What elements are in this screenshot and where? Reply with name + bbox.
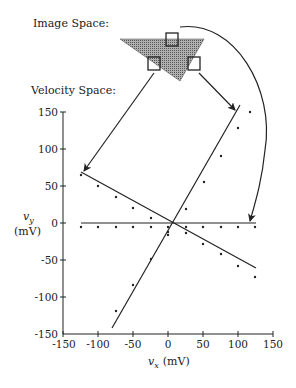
- diagram-canvas: 150 100 50 0 -50 -100 -150 -150 -100 -50…: [0, 0, 296, 388]
- points-steep: [115, 111, 251, 312]
- fit-line-sloped: [81, 172, 256, 268]
- svg-text:(mV): (mV): [14, 225, 41, 238]
- x-axis-label: vx(mV): [148, 355, 190, 370]
- points-horizontal: [80, 226, 256, 228]
- y-axis-label: vy (mV): [14, 210, 41, 238]
- image-space-triangle: [120, 39, 204, 81]
- x-tick-neg100: -100: [86, 338, 110, 350]
- fit-line-steep: [112, 105, 240, 328]
- x-tick-0: 0: [165, 338, 172, 350]
- y-tick-0: 0: [51, 217, 58, 229]
- x-tick-150: 150: [263, 338, 283, 350]
- svg-text:vy: vy: [23, 210, 34, 225]
- y-tick-50: 50: [45, 180, 58, 192]
- x-tick-neg150: -150: [52, 338, 76, 350]
- y-tick-neg50: -50: [41, 254, 58, 266]
- arrow-right-patch: [199, 73, 235, 110]
- y-tick-150: 150: [38, 106, 58, 118]
- svg-text:vx(mV): vx(mV): [148, 355, 190, 370]
- y-tick-neg100: -100: [34, 291, 58, 303]
- x-tick-50: 50: [196, 338, 209, 350]
- x-tick-100: 100: [228, 338, 248, 350]
- arrow-left-patch: [84, 73, 154, 171]
- x-axis: -150 -100 -50 0 50 100 150: [52, 331, 283, 350]
- y-axis: 150 100 50 0 -50 -100 -150: [34, 106, 66, 340]
- x-tick-neg50: -50: [125, 338, 142, 350]
- y-tick-100: 100: [38, 143, 58, 155]
